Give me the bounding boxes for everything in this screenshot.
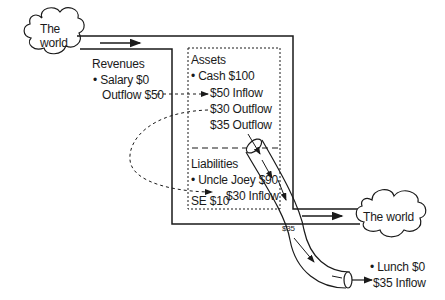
- expense-lunch: • Lunch $0: [370, 260, 425, 274]
- expense-pipe: [244, 134, 372, 288]
- left-world-label-2: world: [40, 36, 68, 50]
- left-world-label-1: The: [40, 22, 60, 36]
- revenues-outflow: Outflow $50: [102, 88, 164, 102]
- liabilities-inflow: $30 Inflow: [226, 189, 279, 203]
- revenues-title: Revenues: [92, 57, 144, 71]
- assets-cash: • Cash $100: [191, 69, 254, 83]
- expense-inflow: $35 Inflow: [373, 276, 426, 290]
- pipe-amount: $35: [282, 224, 295, 233]
- assets-outflow-35: $35 Outflow: [210, 118, 272, 132]
- shareholder-equity: SE $10: [191, 194, 229, 208]
- revenues-salary: • Salary $0: [93, 73, 149, 87]
- right-world-label: The world: [363, 210, 414, 224]
- liabilities-uncle-joey: • Uncle Joey $90: [191, 173, 278, 187]
- liabilities-title: Liabilities: [191, 157, 238, 171]
- assets-title: Assets: [191, 53, 226, 67]
- assets-inflow: $50 Inflow: [210, 86, 263, 100]
- assets-outflow-30: $30 Outflow: [210, 102, 272, 116]
